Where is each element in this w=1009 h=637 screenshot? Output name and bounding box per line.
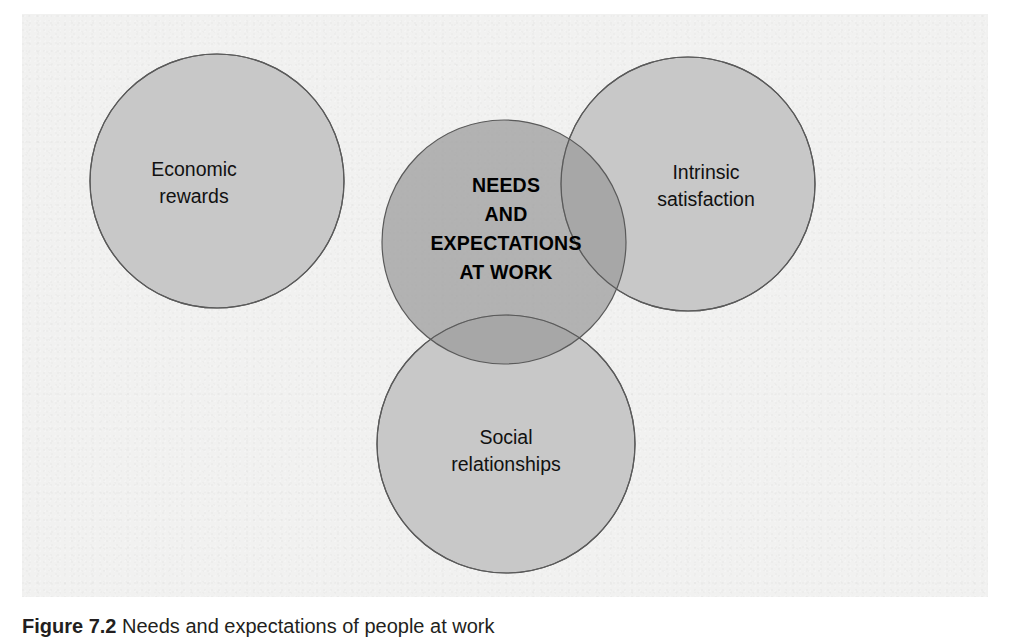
svg-text:Economic: Economic	[151, 158, 237, 180]
svg-text:NEEDS: NEEDS	[472, 174, 540, 196]
venn-diagram: Economic rewards Intrinsic satisfaction …	[22, 14, 988, 597]
svg-text:rewards: rewards	[159, 185, 229, 207]
figure-caption: Figure 7.2 Needs and expectations of peo…	[22, 613, 982, 637]
svg-text:relationships: relationships	[451, 453, 561, 475]
figure-panel: Economic rewards Intrinsic satisfaction …	[22, 14, 988, 597]
circle-economic-rewards	[90, 54, 344, 308]
svg-text:EXPECTATIONS: EXPECTATIONS	[430, 232, 581, 254]
svg-text:AT WORK: AT WORK	[459, 261, 552, 283]
svg-text:Social: Social	[479, 426, 532, 448]
svg-text:satisfaction: satisfaction	[657, 188, 755, 210]
figure-caption-number: Figure 7.2	[22, 615, 116, 637]
figure-caption-text: Needs and expectations of people at work	[122, 615, 494, 637]
svg-text:AND: AND	[485, 203, 528, 225]
svg-text:Intrinsic: Intrinsic	[672, 161, 739, 183]
